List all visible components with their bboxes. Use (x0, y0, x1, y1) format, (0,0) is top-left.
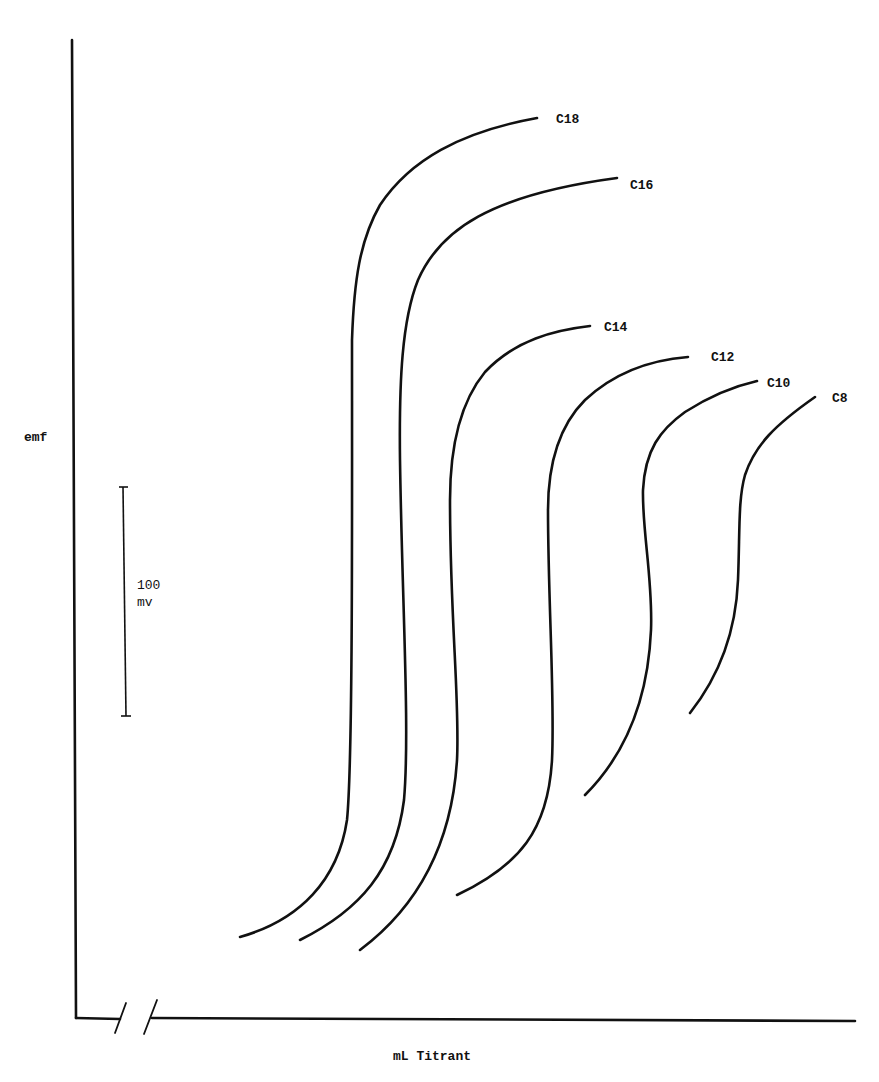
scale-bar-unit: mv (137, 595, 153, 610)
x-axis-label: mL Titrant (393, 1049, 471, 1064)
titration-chart: emf mL Titrant 100 mv C18 C16 C14 C12 C1… (0, 0, 879, 1082)
x-axis-segment-right (152, 1018, 855, 1021)
y-axis (72, 40, 76, 1018)
curve-c8 (690, 397, 815, 713)
curve-c12 (457, 357, 688, 895)
label-c8: C8 (832, 391, 848, 406)
label-c14: C14 (604, 320, 628, 335)
label-c16: C16 (630, 178, 654, 193)
label-c10: C10 (767, 376, 791, 391)
label-c12: C12 (711, 350, 735, 365)
curve-c18 (240, 118, 537, 937)
scale-bar: 100 mv (119, 487, 160, 716)
curve-c16 (300, 178, 617, 940)
curve-c10 (585, 381, 757, 795)
label-c18: C18 (556, 112, 580, 127)
x-axis-segment-left (76, 1018, 120, 1019)
curve-c14 (360, 326, 590, 950)
scale-bar-value: 100 (137, 578, 160, 593)
y-axis-label: emf (24, 430, 48, 445)
